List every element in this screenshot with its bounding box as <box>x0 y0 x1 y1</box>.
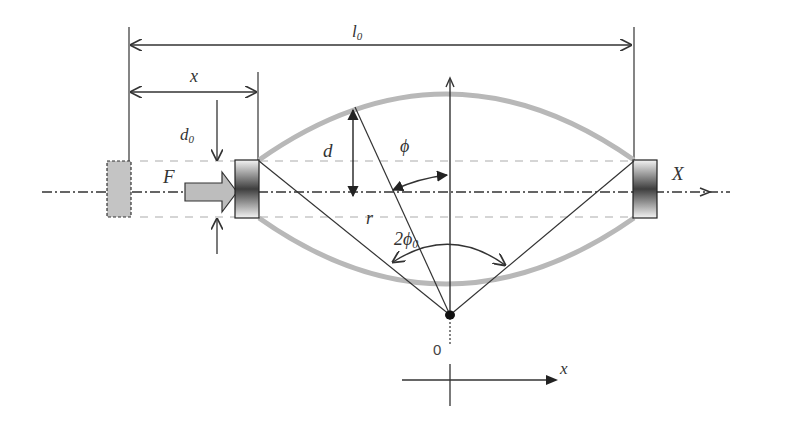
lower-arc <box>259 218 634 284</box>
two-phi0-label: 2ϕ0 <box>394 229 418 251</box>
d0-label: d0 <box>180 125 195 145</box>
x-label: x <box>189 66 198 86</box>
X-label: X <box>671 163 685 184</box>
upper-arc <box>259 94 634 160</box>
r-label: r <box>366 208 374 228</box>
origin-label: 0 <box>433 341 441 358</box>
left-moving-block <box>235 160 259 218</box>
right-fixed-block <box>633 160 657 218</box>
phi-label: ϕ <box>400 136 409 156</box>
d-label: d <box>323 140 333 161</box>
F-label: F <box>162 166 175 187</box>
bottom-x-label: x <box>559 359 568 378</box>
bottom-x-axis-arrowhead <box>546 375 558 385</box>
l0-label: l0 <box>352 22 363 42</box>
arc-mechanism-diagram: l0 x X F d0 d ϕ r 2ϕ0 0 x <box>0 0 794 424</box>
force-arrow <box>185 172 237 212</box>
ghost-block <box>107 161 131 217</box>
phi-angle-arc <box>393 175 447 190</box>
origin-point <box>445 311 455 320</box>
